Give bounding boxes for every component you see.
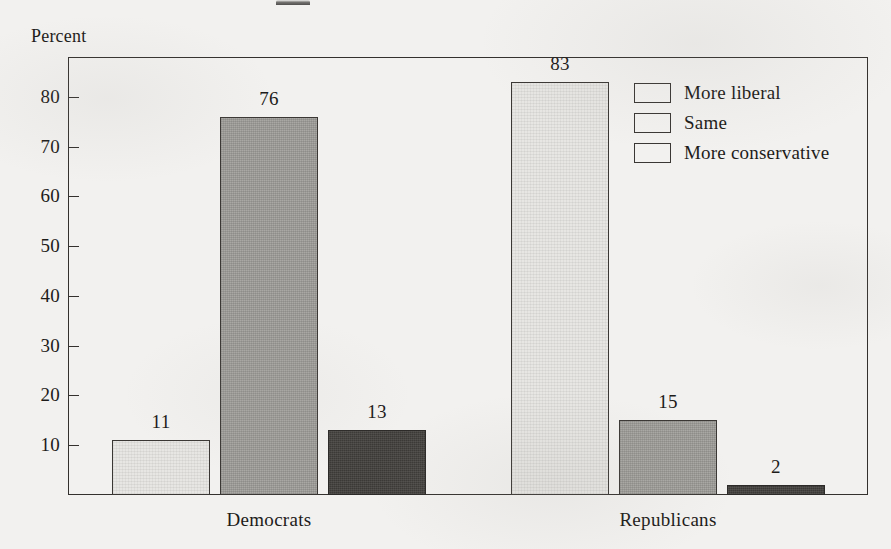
bar-democrats-more_conservative	[328, 430, 426, 495]
y-axis-label-30: 30	[14, 335, 60, 357]
legend-item-same: Same	[634, 112, 829, 134]
medium-gray-swatch	[634, 113, 671, 133]
bar-republicans-same	[619, 420, 717, 495]
y-axis-tick-70	[68, 147, 79, 148]
legend-label-more_liberal: More liberal	[684, 82, 781, 104]
bar-value-republicans-more_conservative: 2	[771, 456, 781, 478]
y-axis-tick-10	[68, 445, 79, 446]
legend-item-more_liberal: More liberal	[634, 82, 829, 104]
chart-legend: More liberalSameMore conservative	[634, 82, 829, 164]
bar-republicans-more_liberal	[511, 82, 609, 495]
grouped-bar-chart-figure: Percent 1020304050607080 117613Democrats…	[0, 0, 891, 549]
category-label-republicans: Republicans	[619, 509, 716, 531]
y-axis-tick-50	[68, 246, 79, 247]
legend-label-same: Same	[684, 112, 727, 134]
y-axis-label-80: 80	[14, 86, 60, 108]
bar-democrats-more_liberal	[112, 440, 210, 495]
y-axis-tick-40	[68, 296, 79, 297]
legend-label-more_conservative: More conservative	[684, 142, 829, 164]
clipped-caption-fragment	[276, 0, 310, 5]
y-axis-tick-labels: 1020304050607080	[8, 57, 60, 495]
y-axis-label-70: 70	[14, 136, 60, 158]
y-axis-tick-30	[68, 346, 79, 347]
y-axis-label-50: 50	[14, 235, 60, 257]
bar-value-democrats-more_liberal: 11	[152, 411, 171, 433]
y-axis-label-20: 20	[14, 384, 60, 406]
dark-gray-swatch	[634, 143, 671, 163]
legend-item-more_conservative: More conservative	[634, 142, 829, 164]
bar-republicans-more_conservative	[727, 485, 825, 495]
y-axis-tick-20	[68, 395, 79, 396]
light-gray-swatch	[634, 83, 671, 103]
bar-value-republicans-more_liberal: 83	[550, 53, 570, 75]
bar-value-republicans-same: 15	[658, 391, 678, 413]
y-axis-title: Percent	[31, 26, 86, 47]
y-axis-tick-80	[68, 97, 79, 98]
y-axis-label-60: 60	[14, 185, 60, 207]
y-axis-label-40: 40	[14, 285, 60, 307]
y-axis-tick-60	[68, 196, 79, 197]
y-axis-label-10: 10	[14, 434, 60, 456]
bar-value-democrats-same: 76	[259, 88, 279, 110]
category-label-democrats: Democrats	[227, 509, 312, 531]
bar-value-democrats-more_conservative: 13	[367, 401, 387, 423]
bar-democrats-same	[220, 117, 318, 495]
